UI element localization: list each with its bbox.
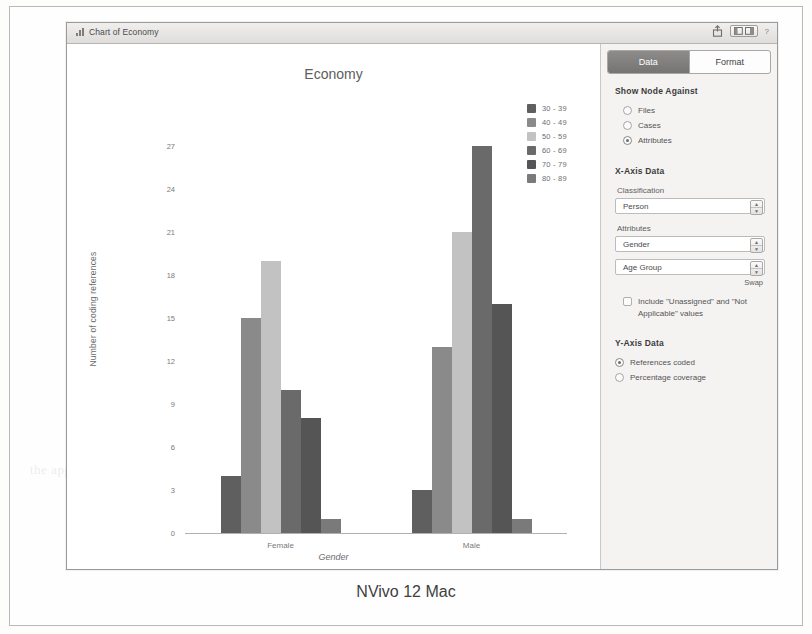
panel-tabs: Data Format <box>607 50 771 74</box>
include-unassigned-box <box>623 297 632 306</box>
include-unassigned-label: Include "Unassigned" and "Not Applicable… <box>638 296 765 320</box>
chart-bar[interactable] <box>221 476 241 533</box>
radio-cases-indicator <box>623 121 632 130</box>
include-unassigned-checkbox[interactable]: Include "Unassigned" and "Not Applicable… <box>623 296 765 320</box>
classification-stepper[interactable]: ▲▼ <box>750 200 763 215</box>
y-axis-tick: 27 <box>141 142 175 151</box>
classification-select[interactable]: Person ▲▼ <box>615 198 765 214</box>
swap-link[interactable]: Swap <box>615 278 763 287</box>
y-axis-tick: 0 <box>141 529 175 538</box>
radio-percentage-coverage-indicator <box>615 373 624 382</box>
chart-bar[interactable] <box>241 318 261 533</box>
settings-panel: Data Format Show Node Against Files Case… <box>600 44 777 569</box>
radio-references-coded-label: References coded <box>630 358 695 367</box>
figure-caption: NVivo 12 Mac <box>0 583 812 601</box>
y-axis-tick: 6 <box>141 443 175 452</box>
attributes-label: Attributes <box>617 224 765 233</box>
radio-files-label: Files <box>638 106 655 115</box>
classification-label: Classification <box>617 186 765 195</box>
attribute-2-value: Age Group <box>616 263 662 272</box>
attribute-1-value: Gender <box>616 240 650 249</box>
x-axis-heading: X-Axis Data <box>615 166 765 176</box>
tab-format[interactable]: Format <box>690 51 771 73</box>
bar-chart-icon <box>76 28 85 36</box>
help-icon[interactable]: ? <box>765 27 769 36</box>
chart-bar[interactable] <box>412 490 432 533</box>
chart-plot-area: Number of coding references Gender 03691… <box>67 44 600 570</box>
radio-cases[interactable]: Cases <box>623 118 765 133</box>
y-axis-tick: 3 <box>141 486 175 495</box>
titlebar-actions: ? <box>712 25 769 37</box>
layout-toggle-icon[interactable] <box>730 25 758 37</box>
y-axis-tick: 18 <box>141 271 175 280</box>
window-title: Chart of Economy <box>89 27 159 37</box>
radio-cases-label: Cases <box>638 121 661 130</box>
show-node-against-heading: Show Node Against <box>615 86 765 96</box>
legend-label: 70 - 79 <box>542 160 567 169</box>
legend-label: 60 - 69 <box>542 146 567 155</box>
legend-item[interactable]: 70 - 79 <box>527 157 567 171</box>
y-axis-tick: 12 <box>141 357 175 366</box>
legend-swatch <box>527 104 536 113</box>
page-canvas: presentation and reference coding the ap… <box>0 0 812 634</box>
y-axis-heading: Y-Axis Data <box>615 338 765 348</box>
y-axis-label: Number of coding references <box>88 219 98 399</box>
legend-label: 80 - 89 <box>542 174 567 183</box>
legend-swatch <box>527 160 536 169</box>
legend-label: 50 - 59 <box>542 132 567 141</box>
radio-references-coded-indicator <box>615 358 624 367</box>
classification-value: Person <box>616 202 648 211</box>
y-axis-tick: 15 <box>141 314 175 323</box>
legend-label: 30 - 39 <box>542 104 567 113</box>
share-icon[interactable] <box>712 25 723 37</box>
radio-percentage-coverage-label: Percentage coverage <box>630 373 706 382</box>
legend-item[interactable]: 80 - 89 <box>527 171 567 185</box>
window-title-group: Chart of Economy <box>76 27 159 37</box>
attribute-1-stepper[interactable]: ▲▼ <box>750 238 763 253</box>
attribute-2-select[interactable]: Age Group ▲▼ <box>615 259 765 275</box>
legend-swatch <box>527 132 536 141</box>
chart-pane: Economy Number of coding references Gend… <box>67 44 600 569</box>
chart-legend: 30 - 3940 - 4950 - 5960 - 6970 - 7980 - … <box>527 101 567 185</box>
y-axis-tick: 21 <box>141 228 175 237</box>
chart-bar[interactable] <box>261 261 281 533</box>
legend-item[interactable]: 30 - 39 <box>527 101 567 115</box>
chart-bar[interactable] <box>432 347 452 533</box>
chart-bar[interactable] <box>321 519 341 533</box>
radio-files[interactable]: Files <box>623 103 765 118</box>
x-axis-label: Gender <box>67 552 600 562</box>
y-axis-tick: 9 <box>141 400 175 409</box>
attribute-1-select[interactable]: Gender ▲▼ <box>615 236 765 252</box>
window-body: Economy Number of coding references Gend… <box>67 44 777 569</box>
radio-attributes-label: Attributes <box>638 136 672 145</box>
radio-attributes-indicator <box>623 136 632 145</box>
radio-attributes[interactable]: Attributes <box>623 133 765 148</box>
chart-bar[interactable] <box>452 232 472 533</box>
chart-bar[interactable] <box>472 146 492 533</box>
chart-bar[interactable] <box>281 390 301 533</box>
legend-label: 40 - 49 <box>542 118 567 127</box>
radio-files-indicator <box>623 106 632 115</box>
x-axis-tick: Male <box>463 541 480 550</box>
attribute-2-stepper[interactable]: ▲▼ <box>750 261 763 276</box>
legend-item[interactable]: 60 - 69 <box>527 143 567 157</box>
legend-swatch <box>527 174 536 183</box>
x-axis-tick: Female <box>267 541 294 550</box>
legend-item[interactable]: 50 - 59 <box>527 129 567 143</box>
legend-swatch <box>527 118 536 127</box>
legend-item[interactable]: 40 - 49 <box>527 115 567 129</box>
chart-bar[interactable] <box>512 519 532 533</box>
chart-bar[interactable] <box>301 418 321 533</box>
window-titlebar: Chart of Economy <box>67 23 777 44</box>
chart-bar[interactable] <box>492 304 512 533</box>
panel-content: Show Node Against Files Cases Attributes… <box>601 74 777 385</box>
x-axis-line <box>185 533 567 534</box>
radio-references-coded[interactable]: References coded <box>615 355 765 370</box>
y-axis-tick: 24 <box>141 185 175 194</box>
legend-swatch <box>527 146 536 155</box>
chart-window: Chart of Economy <box>66 22 778 570</box>
radio-percentage-coverage[interactable]: Percentage coverage <box>615 370 765 385</box>
tab-data[interactable]: Data <box>608 51 690 73</box>
